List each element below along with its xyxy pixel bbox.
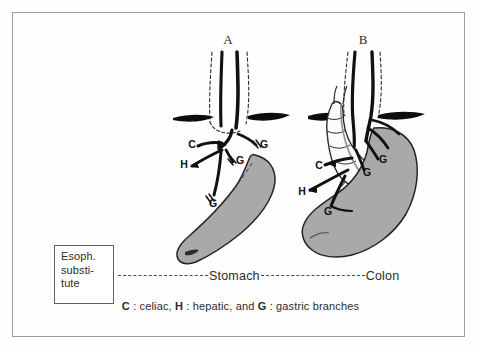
- panel-b-letter: B: [359, 32, 368, 47]
- esoph-substitute-box: Esoph. substi- tute: [54, 245, 114, 304]
- esoph-line-3: tute: [61, 277, 113, 291]
- label-a-gastric-lower: G: [209, 197, 217, 209]
- caption-c-text: celiac,: [140, 300, 175, 312]
- panel-a-letter: A: [223, 32, 233, 47]
- caption-h-key: H: [175, 300, 183, 312]
- figure-root: A: [0, 0, 481, 350]
- label-b-gastric-middle: G: [363, 166, 371, 178]
- caption-h-text: hepatic, and: [193, 300, 258, 312]
- label-colon: Colon: [365, 269, 401, 283]
- label-a-gastric-middle: G: [236, 154, 244, 166]
- panel-b-stomach: [302, 128, 417, 257]
- figure-caption: C : celiac, H : hepatic, and G : gastric…: [0, 300, 481, 312]
- label-a-gastric-upper: G: [260, 138, 268, 150]
- caption-g-text: gastric branches: [276, 300, 359, 312]
- esoph-line-2: substi-: [61, 264, 113, 278]
- caption-c-key: C: [122, 300, 130, 312]
- panel-a-stomach: [177, 155, 275, 264]
- dashed-connector-left: [118, 275, 208, 277]
- label-b-gastric-lower: G: [324, 205, 332, 217]
- caption-c-sep: :: [130, 300, 140, 312]
- label-b-hepatic: H: [298, 185, 306, 197]
- label-stomach: Stomach: [208, 269, 261, 283]
- label-b-celiac: C: [315, 159, 323, 171]
- panel-a-dashed-conduit-outline: [210, 52, 249, 133]
- substitute-row: Stomach Colon: [118, 267, 448, 285]
- panel-b-dashed-conduit-outline: [344, 52, 382, 118]
- dashed-connector-middle: [261, 275, 365, 277]
- panel-a-diaphragm: [173, 113, 290, 122]
- panel-b-main-vessels: [352, 52, 373, 148]
- label-b-gastric-upper: G: [379, 153, 387, 165]
- caption-g-sep: :: [266, 300, 276, 312]
- panel-b-diaphragm: [308, 112, 425, 121]
- label-a-hepatic: H: [180, 158, 188, 170]
- label-a-celiac: C: [188, 138, 196, 150]
- esoph-line-1: Esoph.: [61, 250, 113, 264]
- panel-a-main-vessels: [221, 52, 238, 128]
- caption-h-sep: :: [183, 300, 193, 312]
- panel-b-group: B: [302, 32, 425, 257]
